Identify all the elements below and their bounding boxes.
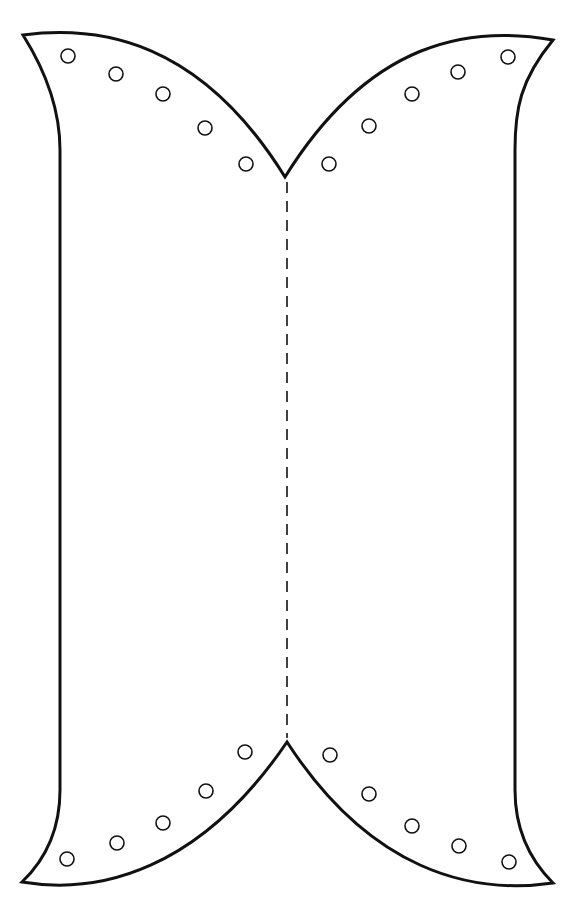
bottom-left-holes: [60, 745, 252, 866]
lacing-hole: [156, 816, 170, 830]
lacing-hole: [239, 157, 253, 171]
lacing-hole: [109, 67, 123, 81]
lacing-hole: [238, 745, 252, 759]
lacing-hole: [452, 839, 466, 853]
top-right-holes: [322, 50, 515, 171]
top-left-holes: [61, 49, 253, 171]
lacing-hole: [199, 784, 213, 798]
bottom-right-holes: [323, 748, 516, 869]
pattern-outline: [22, 33, 553, 886]
lacing-hole: [323, 748, 337, 762]
pattern-template: [0, 0, 580, 905]
lacing-hole: [501, 50, 515, 64]
lacing-hole: [156, 87, 170, 101]
lacing-hole: [60, 852, 74, 866]
lacing-hole: [362, 119, 376, 133]
lacing-hole: [405, 87, 419, 101]
lacing-hole: [110, 836, 124, 850]
lacing-hole: [61, 49, 75, 63]
lacing-hole: [451, 65, 465, 79]
lacing-hole: [322, 157, 336, 171]
lacing-hole: [405, 819, 419, 833]
lacing-hole: [198, 121, 212, 135]
lacing-hole: [502, 855, 516, 869]
lacing-hole: [362, 787, 376, 801]
